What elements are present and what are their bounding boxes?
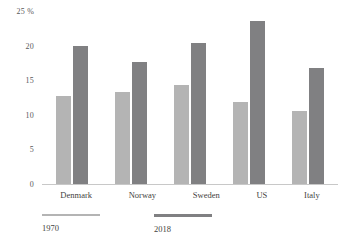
bar-2018-sweden[interactable] xyxy=(191,43,206,184)
bar-1970-denmark[interactable] xyxy=(56,96,71,184)
bar-group xyxy=(174,11,206,184)
x-axis-line xyxy=(42,184,338,185)
category-labels: DenmarkNorwaySwedenUSItaly xyxy=(42,190,338,206)
legend-label: 1970 xyxy=(42,223,100,233)
bar-1970-us[interactable] xyxy=(233,102,248,184)
y-axis-tick-label: 15 xyxy=(26,76,34,85)
bar-2018-denmark[interactable] xyxy=(73,46,88,184)
bar-group xyxy=(115,11,147,184)
bar-2018-italy[interactable] xyxy=(309,68,324,184)
category-label: Italy xyxy=(304,190,320,200)
y-axis-tick-label: 25 % xyxy=(17,7,34,16)
category-label: US xyxy=(256,190,267,200)
category-label: Norway xyxy=(129,190,156,200)
bar-1970-norway[interactable] xyxy=(115,92,130,184)
y-axis-tick-label: 20 xyxy=(26,41,34,50)
y-axis-tick-label: 0 xyxy=(30,180,34,189)
bar-group xyxy=(292,11,324,184)
y-axis-tick-label: 5 xyxy=(30,145,34,154)
bar-group xyxy=(56,11,88,184)
legend-item-2018[interactable]: 2018 xyxy=(154,214,212,234)
legend-swatch-icon xyxy=(42,214,100,216)
bar-1970-sweden[interactable] xyxy=(174,85,189,184)
bar-groups xyxy=(42,11,338,184)
category-label: Sweden xyxy=(193,190,220,200)
bar-2018-us[interactable] xyxy=(250,21,265,184)
bar-2018-norway[interactable] xyxy=(132,62,147,184)
legend-label: 2018 xyxy=(154,224,212,234)
legend-item-1970[interactable]: 1970 xyxy=(42,214,100,233)
bar-chart: 25 %20151050 DenmarkNorwaySwedenUSItaly … xyxy=(0,0,343,250)
bar-1970-italy[interactable] xyxy=(292,111,307,184)
y-axis-tick-label: 10 xyxy=(26,110,34,119)
chart-legend: 19702018 xyxy=(42,214,338,244)
y-axis: 25 %20151050 xyxy=(0,0,42,184)
bar-group xyxy=(233,11,265,184)
category-label: Denmark xyxy=(60,190,92,200)
legend-swatch-icon xyxy=(154,214,212,217)
